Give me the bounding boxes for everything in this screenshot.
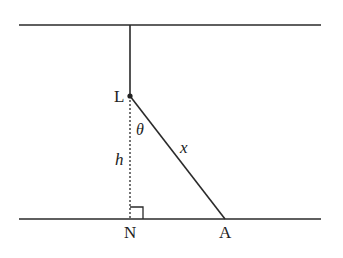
label-A: A [219,223,232,242]
label-x: x [179,138,188,157]
label-L: L [114,87,124,106]
label-theta: θ [136,121,144,138]
slanted-segment-LA [130,96,225,219]
point-L [127,93,132,98]
geometry-diagram: L θ x h N A [0,0,343,258]
label-h: h [115,150,124,169]
label-N: N [124,223,136,242]
right-angle-marker [130,207,143,219]
